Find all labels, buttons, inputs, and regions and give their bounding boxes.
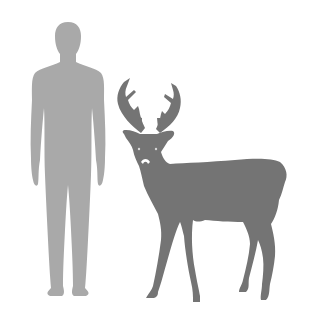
comparison-canvas	[0, 0, 311, 315]
deer-left-eye	[138, 148, 140, 150]
deer-right-eye	[155, 148, 157, 150]
human-silhouette	[31, 22, 106, 296]
deer-silhouette	[117, 78, 286, 302]
size-comparison-figure	[0, 0, 311, 315]
